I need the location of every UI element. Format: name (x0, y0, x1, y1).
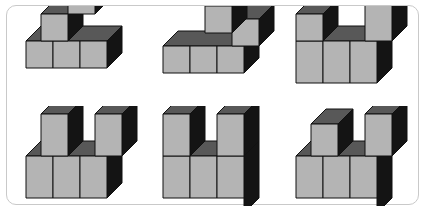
figure-5-drawing (146, 106, 284, 206)
figure-2-drawing (146, 6, 284, 106)
figure-grid (7, 6, 420, 206)
figure-6-drawing (284, 106, 422, 206)
figure-3[interactable] (284, 6, 422, 106)
figure-6[interactable] (284, 106, 422, 206)
figure-1-drawing (9, 6, 147, 106)
figure-2[interactable] (146, 6, 284, 106)
figure-4-drawing (9, 106, 147, 206)
figure-5[interactable] (146, 106, 284, 206)
figure-3-drawing (284, 6, 422, 106)
figure-1[interactable] (9, 6, 147, 106)
puzzle-frame (6, 5, 419, 205)
figure-4[interactable] (9, 106, 147, 206)
